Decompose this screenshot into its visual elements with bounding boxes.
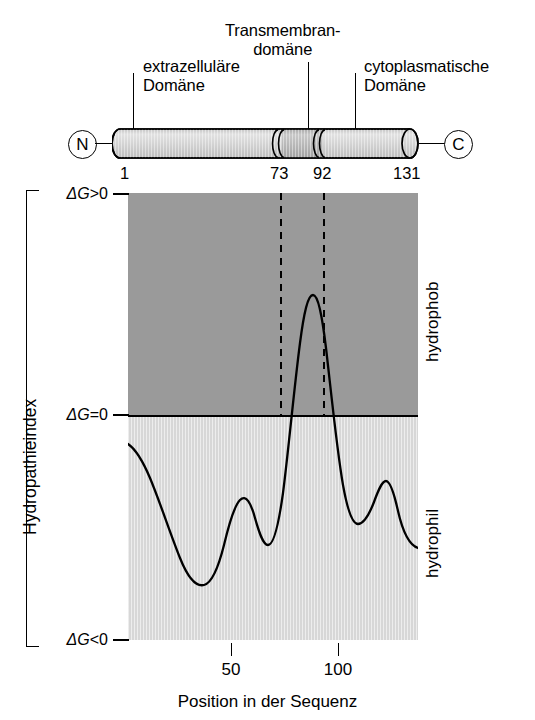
ytick-dash-dg-negative (113, 639, 129, 641)
region-label-hydrophob: hydrophob (424, 282, 441, 362)
c-terminus-badge: C (444, 130, 473, 159)
zero-reference-line (128, 415, 418, 417)
ytick-symbol-dg-negative: ΔG (67, 631, 90, 648)
residue-marker-92: 92 (313, 165, 331, 182)
ytick-relation-dg-negative: <0 (90, 631, 108, 648)
hydropathy-figure: extrazelluläre Domäne Transmembran- domä… (0, 0, 535, 720)
ytick-symbol-dg-positive: ΔG (67, 185, 90, 202)
ytick-relation-dg-zero: =0 (90, 406, 108, 423)
residue-marker-73: 73 (270, 165, 288, 182)
residue-marker-1: 1 (120, 165, 129, 182)
callout-label-transmembrane: Transmembran- domäne (225, 21, 340, 59)
protein-cylinder (112, 123, 432, 165)
plot-area (128, 193, 418, 640)
hydropathy-curve (128, 295, 418, 585)
callout-transmembrane-line2: domäne (225, 40, 340, 59)
callout-transmembrane-line1: Transmembran- (225, 21, 340, 40)
region-label-hydrophil: hydrophil (424, 509, 441, 578)
callout-cytoplasmic-line2: Domäne (364, 76, 489, 95)
y-axis-title: Hydropathieindex (22, 399, 40, 535)
ytick-dash-dg-zero (113, 414, 129, 416)
ytick-label-dg-negative: ΔG<0 (46, 632, 108, 648)
residue-marker-131: 131 (393, 165, 421, 182)
ytick-dash-dg-positive (113, 193, 129, 195)
callout-label-extracellular: extrazelluläre Domäne (143, 57, 240, 95)
callout-extracellular-line1: extrazelluläre (143, 57, 240, 76)
xtick-label-100: 100 (324, 661, 352, 678)
callout-label-cytoplasmic: cytoplasmatische Domäne (364, 57, 489, 95)
ytick-label-dg-zero: ΔG=0 (46, 407, 108, 423)
xtick-mark-100 (338, 643, 339, 656)
xtick-label-50: 50 (222, 661, 241, 678)
x-axis-title: Position in der Sequenz (0, 693, 535, 710)
xtick-mark-50 (231, 643, 232, 656)
ytick-symbol-dg-zero: ΔG (67, 406, 90, 423)
callout-extracellular-line2: Domäne (143, 76, 240, 95)
n-terminus-label: N (76, 136, 88, 153)
c-terminus-label: C (452, 136, 464, 153)
ytick-relation-dg-positive: >0 (90, 185, 108, 202)
callout-cytoplasmic-line1: cytoplasmatische (364, 57, 489, 76)
ytick-label-dg-positive: ΔG>0 (46, 186, 108, 202)
n-terminus-badge: N (68, 130, 97, 159)
